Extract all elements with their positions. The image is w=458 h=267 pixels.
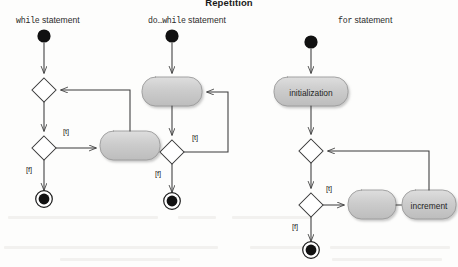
dowhile-decision-node [160, 140, 184, 164]
dowhile-body-activity [142, 77, 202, 106]
figure-canvas: Repetition while statement do…while stat… [0, 0, 458, 267]
dowhile-final-node [164, 193, 181, 210]
for-edge-increment-to-merge [328, 151, 429, 190]
while-initial-node [37, 29, 50, 42]
for-merge-node [299, 139, 323, 163]
while-guard-true: [t] [63, 127, 69, 136]
while-statement-group [32, 29, 160, 207]
for-final-node [303, 242, 320, 259]
for-body-activity [348, 190, 396, 219]
for-initial-node [304, 35, 317, 48]
for-decision-node [299, 193, 323, 217]
dowhile-guard-true: [t] [192, 133, 198, 142]
dowhile-guard-false: [f] [155, 169, 161, 178]
dowhile-statement-group [142, 29, 228, 209]
for-initialization-label: initialization [289, 88, 333, 98]
dowhile-initial-node [165, 29, 178, 42]
while-merge-node [32, 78, 56, 102]
while-final-node [36, 191, 53, 208]
for-guard-true: [t] [326, 184, 332, 193]
while-guard-false: [f] [26, 165, 32, 174]
while-decision-node [32, 136, 56, 160]
while-body-activity [100, 131, 160, 160]
while-edge-body-to-merge [61, 90, 130, 131]
for-increment-label: increment [411, 201, 448, 211]
for-statement-group [274, 35, 456, 258]
for-guard-false: [f] [292, 222, 298, 231]
